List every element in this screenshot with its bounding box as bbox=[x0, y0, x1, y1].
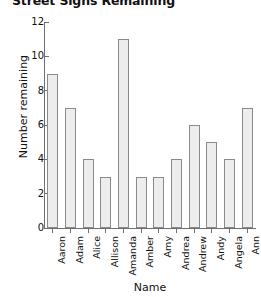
x-tick-mark bbox=[229, 229, 230, 233]
bar bbox=[136, 177, 147, 229]
x-tick-mark bbox=[247, 229, 248, 233]
y-tick-label: 10 bbox=[20, 51, 44, 61]
y-tick-label: 0 bbox=[20, 223, 44, 233]
y-axis-line bbox=[44, 22, 45, 229]
x-tick-mark bbox=[158, 229, 159, 233]
y-tick-label: 2 bbox=[20, 189, 44, 199]
bar bbox=[224, 159, 235, 228]
x-tick-mark bbox=[194, 229, 195, 233]
x-tick-mark bbox=[52, 229, 53, 233]
y-tick-label-wrap: 12 bbox=[0, 17, 44, 27]
y-tick-label-wrap: 2 bbox=[0, 189, 44, 199]
bar-chart-figure: Street Signs Remaining Number remaining … bbox=[0, 0, 261, 297]
bar bbox=[189, 125, 200, 228]
y-tick-label-wrap: 0 bbox=[0, 223, 44, 233]
bar bbox=[47, 74, 58, 229]
chart-title: Street Signs Remaining bbox=[12, 0, 252, 8]
bar bbox=[153, 177, 164, 229]
y-tick-label: 6 bbox=[20, 120, 44, 130]
x-tick-mark bbox=[105, 229, 106, 233]
x-tick-mark bbox=[70, 229, 71, 233]
bar bbox=[242, 108, 253, 228]
bar bbox=[100, 177, 111, 229]
y-tick-label-wrap: 4 bbox=[0, 154, 44, 164]
x-axis-title: Name bbox=[44, 281, 256, 294]
y-tick-label: 4 bbox=[20, 154, 44, 164]
y-tick-label-wrap: 10 bbox=[0, 51, 44, 61]
y-tick-label-wrap: 6 bbox=[0, 120, 44, 130]
x-axis-line bbox=[44, 228, 256, 229]
y-tick-mark bbox=[44, 56, 49, 57]
bar bbox=[65, 108, 76, 228]
y-tick-label: 8 bbox=[20, 86, 44, 96]
x-tick-mark bbox=[176, 229, 177, 233]
x-tick-mark bbox=[123, 229, 124, 233]
bar bbox=[171, 159, 182, 228]
y-tick-label-wrap: 8 bbox=[0, 86, 44, 96]
y-tick-label: 12 bbox=[20, 17, 44, 27]
x-tick-mark bbox=[141, 229, 142, 233]
bar bbox=[83, 159, 94, 228]
x-tick-mark bbox=[211, 229, 212, 233]
x-tick-mark bbox=[88, 229, 89, 233]
y-tick-mark bbox=[44, 22, 49, 23]
bar bbox=[206, 142, 217, 228]
bar bbox=[118, 39, 129, 228]
